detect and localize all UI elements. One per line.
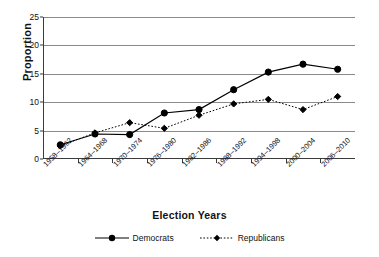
- y-tick-label: 0: [17, 155, 39, 164]
- chart-legend: DemocratsRepublicans: [0, 233, 379, 243]
- legend-item[interactable]: Democrats: [95, 233, 174, 243]
- data-point-marker: [196, 112, 202, 118]
- data-point-marker: [161, 125, 167, 131]
- data-point-marker: [265, 69, 271, 75]
- line-chart: Proportion 0510152025 1958–19621964–1968…: [0, 0, 379, 257]
- data-point-marker: [300, 61, 306, 67]
- x-axis-title: Election Years: [0, 209, 379, 221]
- legend-label: Democrats: [133, 234, 174, 243]
- y-tick-label: 10: [17, 98, 39, 107]
- data-point-marker: [161, 110, 167, 116]
- data-point-marker: [300, 106, 306, 112]
- data-point-marker: [127, 131, 133, 137]
- y-tick-label: 25: [17, 13, 39, 22]
- y-tick-label: 15: [17, 70, 39, 79]
- series-line-democrats: [60, 64, 337, 145]
- legend-diamond-icon: [200, 233, 234, 243]
- legend-label: Republicans: [238, 234, 285, 243]
- data-point-marker: [231, 101, 237, 107]
- y-tick-label: 5: [17, 126, 39, 135]
- y-tick-label: 20: [17, 41, 39, 50]
- legend-item[interactable]: Republicans: [200, 233, 285, 243]
- data-point-marker: [335, 93, 341, 99]
- legend-circle-icon: [95, 233, 129, 243]
- data-point-marker: [231, 87, 237, 93]
- data-point-marker: [335, 66, 341, 72]
- data-point-marker: [127, 120, 133, 126]
- data-point-marker: [265, 96, 271, 102]
- x-tick-label-group: 1958–19621964–19681970–19741976–19801982…: [43, 163, 355, 207]
